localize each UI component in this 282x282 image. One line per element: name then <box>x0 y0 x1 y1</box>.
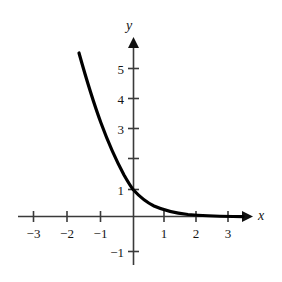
exponential-decay-graph-figure: −3 −2 −1 1 2 3 5 4 3 1 −1 x y <box>0 0 282 282</box>
y-tick-label--1: −1 <box>110 245 124 258</box>
plot-canvas <box>0 0 282 282</box>
x-tick-label-3: 3 <box>225 227 232 240</box>
x-tick-label--3: −3 <box>27 227 41 240</box>
y-tick-label-3: 3 <box>118 122 125 135</box>
y-axis-arrowhead <box>128 37 139 48</box>
y-tick-label-4: 4 <box>118 92 125 105</box>
exponential-decay-curve <box>79 53 243 217</box>
x-tick-label--1: −1 <box>94 227 108 240</box>
x-tick-label--2: −2 <box>60 227 74 240</box>
x-tick-label-1: 1 <box>161 227 168 240</box>
y-tick-label-1: 1 <box>118 183 125 196</box>
x-axis-label: x <box>258 209 264 223</box>
y-tick-label-5: 5 <box>118 62 125 75</box>
y-axis-label: y <box>126 19 132 33</box>
x-tick-label-2: 2 <box>193 227 200 240</box>
